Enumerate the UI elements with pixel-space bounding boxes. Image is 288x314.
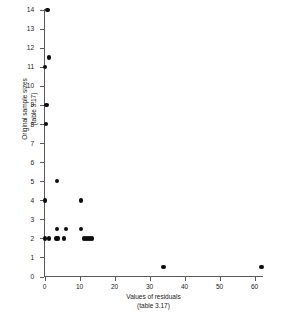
data-point xyxy=(161,265,165,269)
y-axis-title: Original sample sizes (table 3.17) xyxy=(21,0,39,224)
data-point xyxy=(79,227,83,231)
y-tick xyxy=(40,181,44,182)
y-tick xyxy=(40,219,44,220)
data-point xyxy=(64,227,68,231)
x-tick-label: 10 xyxy=(68,283,92,290)
x-tick-label: 30 xyxy=(138,283,162,290)
data-point xyxy=(44,122,48,126)
x-tick xyxy=(220,277,221,281)
x-axis-title: Values of residuals (table 3.17) xyxy=(44,293,263,310)
y-tick xyxy=(40,48,44,49)
data-point xyxy=(47,236,51,240)
x-tick xyxy=(185,277,186,281)
x-tick xyxy=(80,277,81,281)
y-tick xyxy=(40,143,44,144)
y-axis-title-line2: (table 3.17) xyxy=(30,0,39,224)
scatter-plot-figure: 01234567891011121314 0102030405060 Value… xyxy=(0,0,288,314)
data-point xyxy=(43,198,47,202)
data-point xyxy=(90,236,94,240)
data-point xyxy=(43,65,47,69)
x-tick xyxy=(255,277,256,281)
y-tick xyxy=(40,10,44,11)
data-point xyxy=(47,55,51,59)
y-tick xyxy=(40,257,44,258)
x-tick-label: 50 xyxy=(208,283,232,290)
x-axis-line xyxy=(44,276,263,277)
y-tick-label: 2 xyxy=(4,235,34,242)
data-point xyxy=(44,103,48,107)
x-tick-label: 0 xyxy=(33,283,57,290)
y-tick-label: 1 xyxy=(4,254,34,261)
x-axis-title-line2: (table 3.17) xyxy=(44,302,263,311)
data-point xyxy=(55,227,59,231)
data-point xyxy=(79,198,83,202)
x-axis-title-line1: Values of residuals xyxy=(126,293,180,300)
y-tick-label: 0 xyxy=(4,273,34,280)
x-tick-label: 20 xyxy=(103,283,127,290)
data-point xyxy=(55,179,59,183)
y-axis-title-line1: Original sample sizes xyxy=(21,78,28,140)
data-point xyxy=(45,8,49,12)
data-point xyxy=(56,236,60,240)
y-tick xyxy=(40,277,44,278)
y-tick xyxy=(40,29,44,30)
y-tick xyxy=(40,162,44,163)
x-tick xyxy=(150,277,151,281)
x-tick xyxy=(45,277,46,281)
x-tick xyxy=(115,277,116,281)
x-tick-label: 40 xyxy=(173,283,197,290)
y-tick xyxy=(40,86,44,87)
data-point xyxy=(62,236,66,240)
data-point xyxy=(259,265,263,269)
y-tick xyxy=(40,105,44,106)
x-tick-label: 60 xyxy=(243,283,267,290)
